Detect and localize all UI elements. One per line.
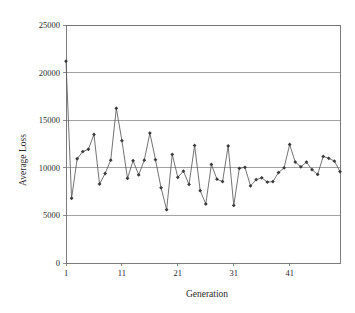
x-tick-label-41: 41 <box>285 268 294 278</box>
line-chart: 0500010000150002000025000 111213141 Aver… <box>0 0 355 313</box>
x-tick-label-1: 1 <box>64 268 68 278</box>
y-tick-label-20000: 20000 <box>39 68 60 78</box>
y-tick-label-5000: 5000 <box>43 210 60 220</box>
chart-container: 0500010000150002000025000 111213141 Aver… <box>0 0 355 313</box>
x-tick-label-21: 21 <box>174 268 183 278</box>
y-tick-label-15000: 15000 <box>39 115 60 125</box>
y-tick-label-0: 0 <box>56 258 60 268</box>
x-tick-label-31: 31 <box>230 268 239 278</box>
x-tick-label-11: 11 <box>118 268 126 278</box>
y-tick-label-25000: 25000 <box>39 20 60 30</box>
y-tick-label-10000: 10000 <box>39 163 60 173</box>
chart-background <box>0 0 355 313</box>
y-axis-title: Average Loss <box>18 134 28 186</box>
x-axis-title: Generation <box>186 289 228 299</box>
